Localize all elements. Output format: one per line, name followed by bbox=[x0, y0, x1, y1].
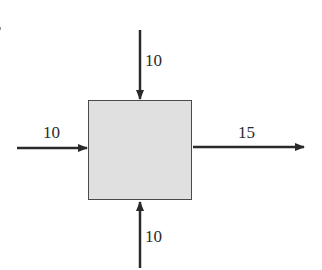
process-block bbox=[88, 100, 192, 200]
top-inflow-label: 10 bbox=[145, 52, 162, 69]
right-outflow-label: 15 bbox=[238, 124, 255, 141]
flow-diagram: 10 10 10 15 bbox=[0, 0, 322, 270]
left-inflow-label: 10 bbox=[43, 124, 60, 141]
bottom-inflow-label: 10 bbox=[145, 228, 162, 245]
